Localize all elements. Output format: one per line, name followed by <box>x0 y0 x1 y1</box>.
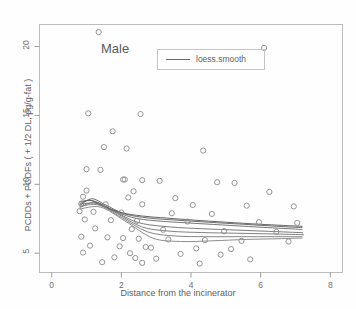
data-point <box>87 243 92 248</box>
data-point <box>232 180 237 185</box>
legend-entry-label: loess.smooth <box>196 54 246 64</box>
x-tick-label: 2 <box>111 280 131 290</box>
data-point <box>127 251 132 256</box>
data-point <box>173 196 178 201</box>
x-axis-label: Distance from the incinerator <box>0 288 356 298</box>
data-point <box>197 261 202 266</box>
data-point <box>105 235 110 240</box>
data-point <box>202 238 207 243</box>
data-point <box>215 180 220 185</box>
data-point <box>96 29 101 34</box>
data-point <box>286 239 291 244</box>
y-tick-label: 20 <box>21 37 31 53</box>
data-point <box>84 188 89 193</box>
data-points <box>77 29 300 266</box>
data-point <box>209 211 214 216</box>
data-point <box>140 202 145 207</box>
plot-frame <box>40 25 343 273</box>
y-tick-label: 5 <box>21 243 31 259</box>
data-point <box>126 195 131 200</box>
data-point <box>157 178 162 183</box>
data-point <box>82 217 87 222</box>
x-tick-label: 0 <box>42 280 62 290</box>
data-point <box>93 226 98 231</box>
data-point <box>190 202 195 207</box>
x-tick-label: 4 <box>181 280 201 290</box>
data-point <box>120 235 125 240</box>
data-point <box>140 260 145 265</box>
data-point <box>77 209 82 214</box>
scatter-plot-canvas <box>0 0 356 309</box>
data-point <box>143 244 148 249</box>
y-tick-label: 15 <box>21 105 31 121</box>
male-annotation: Male <box>101 41 129 56</box>
y-tick-label: 10 <box>21 174 31 190</box>
data-point <box>117 244 122 249</box>
data-point <box>79 234 84 239</box>
data-point <box>100 260 105 265</box>
data-point <box>138 111 143 116</box>
chart-container: Male loess.smooth Distance from the inci… <box>0 0 356 309</box>
data-point <box>161 227 166 232</box>
y-axis-label: PCDDs + PCDFs ( + 1/2 DL, pg/g-fat ) <box>23 45 33 265</box>
data-point <box>136 236 141 241</box>
data-point <box>129 227 134 232</box>
data-point <box>239 238 244 243</box>
data-point <box>218 252 223 257</box>
data-point <box>140 178 145 183</box>
data-point <box>178 251 183 256</box>
data-point <box>131 189 136 194</box>
data-point <box>108 218 113 223</box>
x-tick-label: 6 <box>251 280 271 290</box>
data-point <box>91 209 96 214</box>
data-point <box>201 148 206 153</box>
data-point <box>84 167 89 172</box>
data-point <box>244 203 249 208</box>
data-point <box>101 145 106 150</box>
data-point <box>291 204 296 209</box>
data-point <box>295 220 300 225</box>
data-point <box>124 146 129 151</box>
data-point <box>80 194 85 199</box>
data-point <box>154 256 159 261</box>
data-point <box>98 167 103 172</box>
y-axis-ticks <box>35 47 40 254</box>
data-point <box>86 111 91 116</box>
data-point <box>148 245 153 250</box>
x-axis-ticks <box>52 273 331 278</box>
data-point <box>80 250 85 255</box>
data-point <box>110 129 115 134</box>
data-point <box>194 246 199 251</box>
data-point <box>112 255 117 260</box>
data-point <box>133 255 138 260</box>
data-point <box>169 211 174 216</box>
data-point <box>267 189 272 194</box>
data-point <box>228 246 233 251</box>
data-point <box>248 257 253 262</box>
x-tick-label: 8 <box>320 280 340 290</box>
